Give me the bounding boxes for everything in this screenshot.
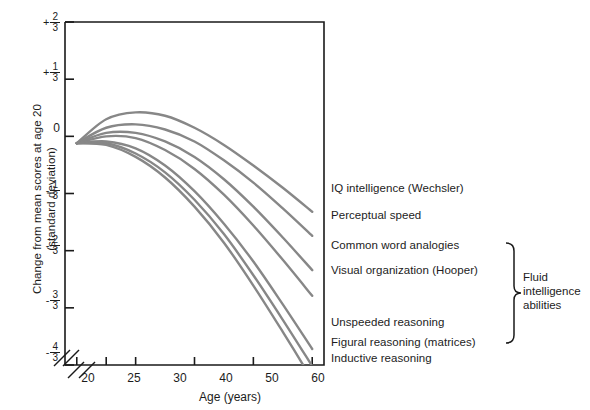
axis-frame [65, 22, 324, 365]
fluid-intelligence-bracket [506, 243, 521, 343]
plot-area [0, 0, 590, 410]
curve-unspeeded-reasoning [77, 141, 312, 349]
axis-break-marks [54, 350, 95, 378]
curve-inductive-reasoning [77, 143, 312, 380]
axes [65, 22, 324, 365]
group-bracket [506, 243, 521, 343]
axis-break-slash [54, 350, 70, 366]
curve-visual-organization-hooper [77, 136, 312, 296]
data-curves [77, 112, 312, 380]
chart-figure: Change from mean scores at age 20 (stand… [0, 0, 590, 410]
